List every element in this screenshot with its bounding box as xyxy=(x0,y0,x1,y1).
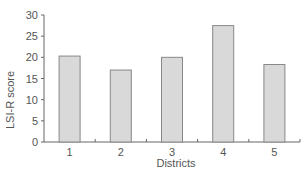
x-tick-label: 1 xyxy=(67,146,73,158)
y-tick-label: 0 xyxy=(32,136,38,148)
y-tick-label: 10 xyxy=(26,94,38,106)
y-axis: 051015202530 xyxy=(26,9,44,148)
y-tick-label: 30 xyxy=(26,9,38,21)
y-tick-label: 20 xyxy=(26,51,38,63)
y-axis-label: LSI-R score xyxy=(4,71,16,129)
bars xyxy=(59,26,285,142)
x-tick-label: 2 xyxy=(118,146,124,158)
bar-district-2 xyxy=(110,70,131,142)
bar-district-3 xyxy=(162,57,183,142)
bar-district-1 xyxy=(59,56,80,142)
y-tick-label: 15 xyxy=(26,73,38,85)
x-axis-label: Districts xyxy=(156,157,196,169)
x-tick-label: 4 xyxy=(220,146,226,158)
y-tick-label: 25 xyxy=(26,30,38,42)
bar-district-5 xyxy=(264,65,285,142)
bar-chart: 051015202530 12345 LSI-R score Districts xyxy=(0,0,308,181)
y-tick-label: 5 xyxy=(32,115,38,127)
bar-district-4 xyxy=(213,26,234,142)
x-tick-label: 5 xyxy=(271,146,277,158)
